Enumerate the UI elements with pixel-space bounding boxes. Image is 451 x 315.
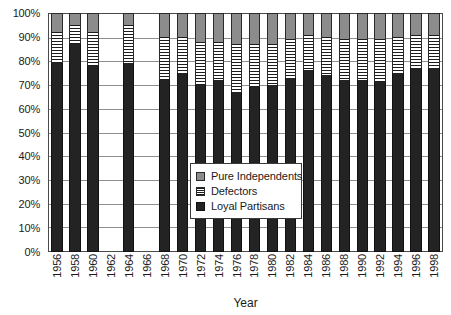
stacked-bar[interactable] [303, 13, 314, 252]
x-tick-label: 1958 [69, 254, 81, 278]
x-tick-label: 1970 [177, 254, 189, 278]
bar-segment [87, 66, 98, 252]
x-tick-label: 1968 [159, 254, 171, 278]
stacked-bar[interactable] [321, 13, 332, 252]
stacked-bar[interactable] [339, 13, 350, 252]
bar-segment [357, 13, 368, 39]
stacked-bar[interactable] [123, 13, 134, 252]
y-tick-label: 100% [13, 7, 40, 19]
bar-segment [249, 44, 260, 87]
bar-slot [138, 13, 156, 252]
y-tick-label: 20% [19, 198, 40, 210]
stacked-bar[interactable] [410, 13, 421, 252]
bar-segment [339, 80, 350, 252]
bar-segment [267, 13, 278, 44]
stacked-bar-empty[interactable] [141, 13, 152, 252]
bar-segment [159, 37, 170, 80]
y-tick-label: 80% [19, 55, 40, 67]
bar-segment [339, 13, 350, 39]
bar-segment [374, 39, 385, 82]
bar-segment [177, 37, 188, 73]
bar-segment [339, 39, 350, 80]
bar-slot [353, 13, 371, 252]
bar-segment [285, 13, 296, 39]
bar-segment [177, 73, 188, 252]
bar-segment [51, 13, 62, 32]
bar-segment [357, 80, 368, 252]
bar-slot [425, 13, 443, 252]
bar-segment [123, 63, 134, 252]
legend-item[interactable]: Loyal Partisans [196, 199, 296, 213]
black-square-icon [196, 202, 205, 211]
x-tick-slot: 1996 [407, 254, 425, 296]
bar-segment [69, 25, 80, 44]
x-tick-slot: 1982 [281, 254, 299, 296]
y-tick-label: 90% [19, 31, 40, 43]
legend-item-label: Loyal Partisans [211, 200, 285, 212]
x-tick-label: 1998 [428, 254, 440, 278]
x-tick-slot: 1986 [317, 254, 335, 296]
bar-segment [87, 13, 98, 32]
stacked-bar[interactable] [392, 13, 403, 252]
x-tick-slot: 1968 [156, 254, 174, 296]
bar-segment [392, 13, 403, 37]
bar-segment [213, 42, 224, 80]
x-tick-slot: 1994 [389, 254, 407, 296]
x-tick-slot: 1990 [353, 254, 371, 296]
stacked-bar[interactable] [428, 13, 439, 252]
bar-segment [177, 13, 188, 37]
bar-segment [374, 82, 385, 252]
stacked-bar[interactable] [374, 13, 385, 252]
bar-slot [317, 13, 335, 252]
bar-segment [428, 35, 439, 68]
bar-segment [410, 35, 421, 68]
legend-item-label: Defectors [211, 185, 257, 197]
legend-item[interactable]: Pure Independents [196, 169, 296, 183]
bar-segment [51, 63, 62, 252]
bar-segment [231, 13, 242, 44]
stacked-bar[interactable] [87, 13, 98, 252]
y-axis: 100%90%80%70%60%50%40%30%20%10%0% [0, 13, 44, 252]
x-tick-label: 1956 [51, 254, 63, 278]
bar-slot [102, 13, 120, 252]
bar-segment [267, 44, 278, 85]
bar-segment [321, 37, 332, 75]
x-tick-label: 1972 [195, 254, 207, 278]
x-tick-slot: 1988 [335, 254, 353, 296]
bar-segment [410, 13, 421, 35]
x-tick-slot: 1958 [66, 254, 84, 296]
x-tick-slot: 1972 [192, 254, 210, 296]
bar-slot [389, 13, 407, 252]
stacked-bar[interactable] [159, 13, 170, 252]
x-tick-label: 1966 [141, 254, 153, 278]
bar-segment [321, 75, 332, 252]
legend-item-label: Pure Independents [211, 170, 302, 182]
x-tick-slot: 1970 [174, 254, 192, 296]
stacked-bar-empty[interactable] [105, 13, 116, 252]
gray-square-icon [196, 172, 205, 181]
bar-slot [174, 13, 192, 252]
stacked-bar[interactable] [357, 13, 368, 252]
stacked-bar[interactable] [51, 13, 62, 252]
bar-segment [303, 35, 314, 71]
x-tick-label: 1990 [356, 254, 368, 278]
y-tick-label: 0% [25, 246, 41, 258]
legend-item[interactable]: Defectors [196, 184, 296, 198]
bar-segment [159, 80, 170, 252]
x-tick-label: 1978 [248, 254, 260, 278]
y-tick-label: 60% [19, 103, 40, 115]
bar-slot [156, 13, 174, 252]
bar-segment [249, 13, 260, 44]
bar-slot [120, 13, 138, 252]
x-tick-label: 1994 [392, 254, 404, 278]
stacked-bar[interactable] [177, 13, 188, 252]
bar-segment [392, 73, 403, 252]
x-tick-slot: 1962 [102, 254, 120, 296]
chart-screenshot: 100%90%80%70%60%50%40%30%20%10%0% 195619… [0, 0, 451, 315]
stacked-bar[interactable] [69, 13, 80, 252]
x-tick-label: 1962 [105, 254, 117, 278]
x-axis: 1956195819601962196419661968197019721974… [48, 254, 443, 296]
bar-segment [87, 32, 98, 65]
bar-slot [66, 13, 84, 252]
bar-segment [374, 13, 385, 39]
